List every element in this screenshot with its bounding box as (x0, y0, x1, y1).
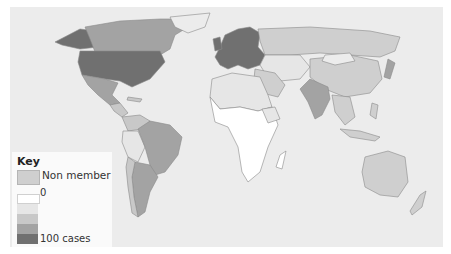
region-australia (362, 151, 408, 197)
non-member-label: Non member (42, 169, 111, 181)
region-uk (213, 37, 222, 51)
region-central-america (110, 103, 128, 117)
region-southeast-asia (332, 95, 355, 125)
region-caribbean (127, 97, 142, 102)
region-madagascar (276, 151, 286, 169)
non-member-swatch (17, 170, 40, 185)
scale-step-1 (17, 194, 40, 204)
map-key: Key Non member 0 100 cases (12, 152, 112, 247)
scale-max-label: 100 cases (40, 233, 90, 244)
scale-min-label: 0 (40, 187, 46, 198)
region-russia (258, 27, 400, 57)
key-title: Key (17, 155, 40, 168)
region-japan (384, 59, 395, 79)
region-europe (215, 27, 265, 69)
scale-step-2 (17, 204, 38, 214)
region-new-zealand (410, 191, 426, 215)
scale-step-3 (17, 214, 38, 224)
region-philippines (370, 103, 378, 119)
scale-step-5 (17, 234, 38, 244)
scale-step-4 (17, 224, 38, 234)
region-indonesia (340, 129, 380, 141)
color-scale (17, 194, 38, 244)
